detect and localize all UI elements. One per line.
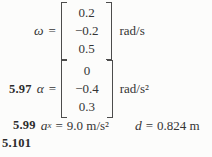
vector-component: 0.5 <box>79 40 95 58</box>
acceleration-subscript: x <box>47 121 51 130</box>
alpha-symbol: α <box>37 81 44 97</box>
vector-component: −0.4 <box>75 80 99 98</box>
answer-key-page: { "page": { "background_color": "#fcfcfb… <box>0 0 212 157</box>
answer-599: 5.99 ax = 9.0 m/s² d = 0.824 m <box>13 117 200 134</box>
vector-component: 0.3 <box>79 98 95 116</box>
acceleration-value: 9.0 m/s² <box>67 118 109 134</box>
equation-alpha: 5.97 α = 0 −0.4 0.3 rad/s² <box>9 60 149 118</box>
omega-vector: 0.2 −0.2 0.5 <box>61 2 113 60</box>
vector-component: −0.2 <box>75 22 99 40</box>
distance-symbol: d <box>135 118 142 134</box>
vector-values: 0 −0.4 0.3 <box>67 60 107 118</box>
equals-sign: = <box>49 81 56 97</box>
equals-sign: = <box>49 23 56 39</box>
problem-number: 5.99 <box>13 118 36 133</box>
omega-unit: rad/s <box>119 23 144 39</box>
alpha-vector: 0 −0.4 0.3 <box>61 60 113 118</box>
answer-5101: 5.101 <box>2 135 31 151</box>
distance-value: 0.824 m <box>157 118 200 134</box>
alpha-unit: rad/s² <box>120 81 149 97</box>
right-bracket <box>106 2 112 60</box>
vector-values: 0.2 −0.2 0.5 <box>67 2 107 60</box>
vector-component: 0.2 <box>79 4 95 22</box>
equals-sign: = <box>55 118 62 134</box>
problem-number: 5.97 <box>9 82 32 97</box>
equation-omega: ω = 0.2 −0.2 0.5 rad/s <box>34 1 145 60</box>
vector-component: 0 <box>84 62 91 80</box>
problem-number: 5.101 <box>2 136 31 151</box>
omega-symbol: ω <box>34 23 44 39</box>
equals-sign: = <box>146 118 153 134</box>
right-bracket <box>107 60 113 118</box>
